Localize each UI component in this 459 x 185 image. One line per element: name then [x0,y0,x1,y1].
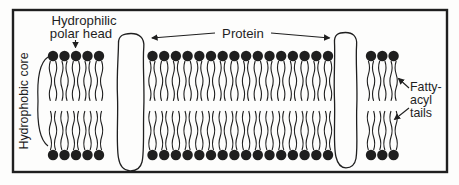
lipid-head [276,150,286,160]
lipid-tail [224,61,226,101]
lipid-tail [55,61,57,101]
lipid-head [59,51,69,61]
lipid-tail [384,61,386,101]
lipid-tail [166,61,168,101]
lipid-tail [278,111,280,150]
lipid-head [388,51,398,61]
lipid-tail [266,111,268,150]
lipid-head [182,51,192,61]
lipid-head [323,150,333,160]
lipid-tail [254,111,256,150]
lipid-tail [294,111,296,150]
lipid-tail [231,61,233,101]
lipid-head [147,150,157,160]
lipid-head [299,150,309,160]
lipid-tail [196,61,198,101]
lipid-head [388,150,398,160]
lipid-tail [89,61,91,101]
lipid-tail [154,61,156,101]
lipid-tail [231,111,233,150]
label-hydrophobic-core: Hydrophobic core [17,52,31,149]
lipid-head [377,150,387,160]
lipid-tail [318,111,320,150]
protein-arrow-left [152,33,215,38]
lipid-tail [219,61,221,101]
lipid-head [311,150,321,160]
lipid-tail [278,61,280,101]
lipid-tail [61,61,63,101]
lipid-head [159,150,169,160]
fatty-tails-arrow-upper [399,79,410,89]
lipid-tail [330,111,332,150]
hydrophobic-core-bracket [38,57,48,146]
lipid-tail [55,111,57,150]
lipid-head [182,150,192,160]
lipid-tail [236,111,238,150]
lipid-head [159,51,169,61]
lipid-head [288,51,298,61]
lipid-tail [161,61,163,101]
lipid-tail [242,61,244,101]
lipid-tail [384,111,386,150]
lipid-tail [72,111,74,150]
lipid-tail [283,111,285,150]
lipid-head [253,51,263,61]
lipid-head [218,150,228,160]
lipid-tail [373,61,375,101]
lipid-head [206,150,216,160]
lipid-tail [395,61,397,101]
label-fatty-line2: acyl [410,93,432,107]
lipid-tail [289,111,291,150]
lipid-tail [184,61,186,101]
lipid-tail [161,111,163,150]
lipid-tail [149,111,151,150]
lipid-head [82,150,92,160]
lipid-head [241,150,251,160]
lipid-head [377,51,387,61]
lipid-tail [266,61,268,101]
lipid-head [71,51,81,61]
lipid-head [366,150,376,160]
lipid-tail [201,111,203,150]
lipid-tail [224,111,226,150]
lipid-head [264,150,274,160]
lipid-tail [95,111,97,150]
lipid-tail [177,111,179,150]
lipid-tail [201,61,203,101]
lipid-head [311,51,321,61]
lipid-head [323,51,333,61]
lipid-head [147,51,157,61]
lipid-tail [242,111,244,150]
protein-right-shape [334,33,357,168]
lipid-tail [166,111,168,150]
lipid-tail [367,111,369,150]
lipid-tail [213,111,215,150]
label-fatty-line3: tails [410,106,432,120]
lipid-head [288,150,298,160]
lipid-tail [207,111,209,150]
lipid-tail [379,61,381,101]
lipid-tail [294,61,296,101]
lipid-tail [330,61,332,101]
membrane-diagram: Hydrophilic polar head Protein Hydrophob… [0,0,459,185]
lipid-tail [306,61,308,101]
lipid-head [218,51,228,61]
label-fatty-line1: Fatty- [410,80,442,94]
label-hydrophilic-line2: polar head [50,26,112,41]
lipid-head [171,150,181,160]
lipid-head [264,51,274,61]
lipid-tail [101,61,103,101]
lipid-head [276,51,286,61]
lipid-tail [271,111,273,150]
lipid-head [241,51,251,61]
lipid-head [253,150,263,160]
lipid-tail [189,61,191,101]
lipid-tail [49,61,51,101]
lipid-head [171,51,181,61]
lipid-tail [324,111,326,150]
lipid-tail [254,61,256,101]
lipid-tail [373,111,375,150]
lipid-tail [259,61,261,101]
lipid-tail [313,61,315,101]
lipid-tail [101,111,103,150]
